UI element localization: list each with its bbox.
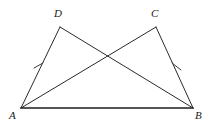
vertex-label-D: D (54, 8, 62, 19)
vertex-label-A: A (9, 110, 16, 121)
segment-AC (21, 27, 156, 108)
segment-BD (60, 27, 193, 108)
vertex-label-B: B (195, 110, 202, 121)
tick-mark-BC (172, 63, 181, 70)
geometry-figure: A B C D (0, 0, 211, 124)
figure-canvas (0, 0, 211, 124)
vertex-label-C: C (151, 8, 158, 19)
segment-BC (156, 27, 193, 108)
